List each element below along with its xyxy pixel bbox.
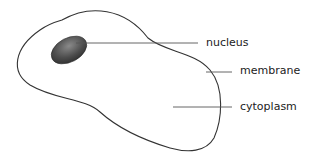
membrane-label: membrane <box>240 65 300 76</box>
cell-diagram <box>0 0 312 161</box>
cytoplasm-label: cytoplasm <box>240 101 297 112</box>
cell-membrane-outline <box>17 11 220 151</box>
nucleus-label: nucleus <box>206 37 249 48</box>
nucleus-shape <box>47 30 92 69</box>
